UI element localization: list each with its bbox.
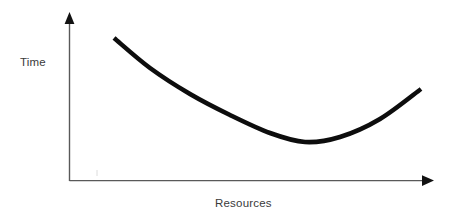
plot-area	[0, 0, 456, 216]
y-axis-arrowhead-icon	[65, 12, 75, 24]
data-curve-time-vs-resources	[114, 38, 421, 142]
x-axis-arrowhead-icon	[422, 175, 434, 186]
x-axis-label: Resources	[215, 196, 272, 210]
chart-canvas: Time Resources	[0, 0, 456, 216]
y-axis-label: Time	[20, 55, 46, 69]
